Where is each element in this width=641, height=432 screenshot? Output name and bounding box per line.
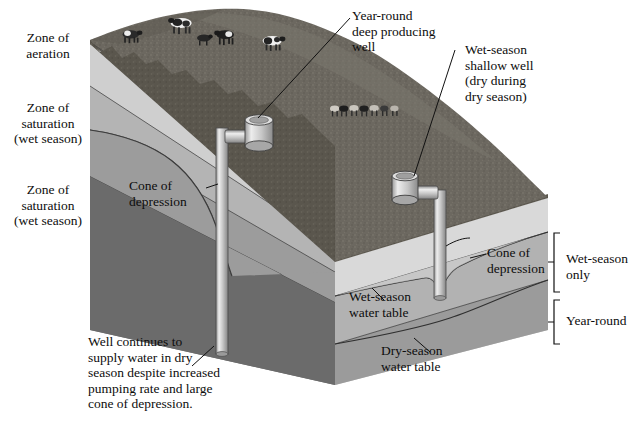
well-pipe-icon <box>216 128 228 356</box>
well-pipe-icon <box>434 190 446 300</box>
label-bracket-year-round: Year-round <box>566 313 641 329</box>
label-year-round-deep-well: Year-round deep producing well <box>352 8 472 55</box>
label-caption-well-continues: Well continues to supply water in dry se… <box>88 334 278 412</box>
label-bracket-wet-season-only: Wet-season only <box>566 251 641 282</box>
label-zone-of-saturation-lower: Zone of saturation (wet season) <box>2 182 94 229</box>
label-zone-of-aeration: Zone of aeration <box>6 30 90 61</box>
label-dry-season-water-table: Dry-season water table <box>381 343 481 374</box>
label-zone-of-saturation-upper: Zone of saturation (wet season) <box>2 100 94 147</box>
label-wet-season-shallow-well: Wet-season shallow well (dry during dry … <box>465 42 581 104</box>
label-cone-of-depression-left: Cone of depression <box>129 178 219 209</box>
figure-canvas: Zone of aeration Zone of saturation (wet… <box>0 0 641 432</box>
label-cone-of-depression-right: Cone of depression <box>487 245 577 276</box>
label-wet-season-water-table: Wet-season water table <box>349 289 449 320</box>
